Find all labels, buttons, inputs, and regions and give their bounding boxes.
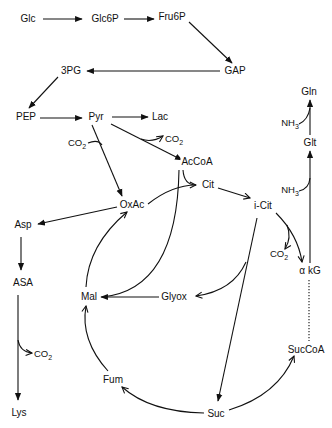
arrow-icit-suc — [218, 218, 257, 401]
arrow-fru6p-gap — [189, 22, 232, 63]
node-icit: i-Cit — [253, 201, 273, 211]
node-glt: Glt — [303, 138, 318, 148]
node-oxac: OxAc — [119, 200, 145, 210]
node-glc6p: Glc6P — [90, 14, 119, 24]
arrow-oxac-asp — [38, 207, 117, 224]
arrow-oxac-cit — [148, 185, 196, 204]
arrow-co2-release-pdh — [141, 136, 163, 140]
node-asp: Asp — [13, 220, 32, 230]
node-accoa: AcCoA — [180, 157, 213, 167]
arrow-3pg-pep — [29, 77, 58, 108]
node-pep: PEP — [15, 112, 37, 122]
arrow-accoa-cit — [183, 170, 196, 185]
arrow-suc-fum — [122, 387, 204, 413]
node-pyr: Pyr — [88, 112, 105, 122]
node-fum: Fum — [102, 375, 124, 385]
node-fru6p: Fru6P — [157, 12, 186, 22]
node-glc: Glc — [20, 14, 37, 24]
arrow-co2-release-lys — [18, 340, 32, 353]
node-akg: α kG — [298, 266, 321, 276]
arrow-fum-mal — [85, 306, 108, 371]
cofactor-co2-pc: CO2 — [68, 138, 86, 150]
arrow-cit-icit — [218, 188, 250, 198]
node-mal: Mal — [80, 292, 98, 302]
cofactor-co2-icdh: CO2 — [270, 249, 288, 261]
cofactor-nh3-glt: NH3 — [281, 185, 299, 197]
arrow-mal-oxac — [86, 212, 127, 287]
arrow-nh3-uptake-glt — [299, 178, 310, 191]
node-gln: Gln — [300, 87, 318, 97]
node-3pg: 3PG — [60, 66, 82, 76]
cofactor-co2-lys: CO2 — [34, 349, 52, 361]
arrow-co2-release-icdh — [285, 225, 289, 249]
arrow-pyr-oxac — [92, 125, 122, 196]
node-suc: Suc — [206, 409, 225, 419]
arrow-icit-glyox — [196, 262, 246, 296]
node-lac: Lac — [151, 112, 169, 122]
node-cit: Cit — [201, 180, 215, 190]
arrow-suc-succoa — [229, 356, 294, 410]
node-gap: GAP — [223, 66, 246, 76]
cofactor-nh3-gln: NH3 — [281, 118, 299, 130]
node-succoa: SucCoA — [287, 345, 326, 355]
node-lys: Lys — [10, 408, 27, 418]
pathway-arrows — [0, 0, 332, 428]
node-glyox: Glyox — [160, 292, 188, 302]
metabolic-pathway-diagram: Glc Glc6P Fru6P GAP 3PG PEP Pyr Lac AcCo… — [0, 0, 332, 428]
cofactor-co2-pdh: CO2 — [165, 134, 183, 146]
arrow-nh3-uptake-gln — [299, 108, 310, 124]
arrow-accoa-mal — [102, 170, 179, 297]
node-asa: ASA — [12, 278, 34, 288]
